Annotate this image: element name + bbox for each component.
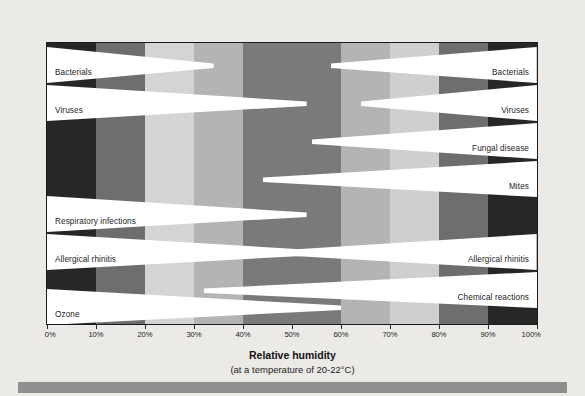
risk-bar-label-fungal-disease-right: Fungal disease [472,145,529,153]
x-tick-50% [292,325,293,329]
x-tick-label-100%: 100% [521,330,540,339]
risk-bar-fungal-disease-right [312,123,537,159]
risk-bar-allergical-rhinitis-right [277,234,537,270]
x-axis-subtitle: (at a temperature of 20-22°C) [0,364,585,375]
risk-bar-label-bacterials-right: Bacterials [492,69,529,77]
x-tick-0% [47,325,48,329]
bar-wedge [47,47,214,83]
risk-bar-label-allergical-rhinitis-right: Allergical rhinitis [468,256,529,264]
x-tick-70% [390,325,391,329]
x-tick-20% [145,325,146,329]
x-tick-label-90%: 90% [480,330,495,339]
bar-wedge [331,47,537,83]
x-tick-30% [194,325,195,329]
risk-bar-viruses-right [361,85,537,121]
plot-area: BacterialsBacterialsVirusesVirusesFungal… [46,42,538,325]
bar-wedge [47,85,307,121]
x-axis: 0%10%20%30%40%50%60%70%80%90%100% [46,325,538,331]
x-tick-label-20%: 20% [137,330,152,339]
x-tick-label-40%: 40% [235,330,250,339]
risk-bar-respiratory-infections-left [47,196,307,232]
risk-bar-bacterials-right [331,47,537,83]
risk-bar-label-ozone-left: Ozone [55,311,80,319]
x-tick-label-50%: 50% [284,330,299,339]
risk-bar-label-respiratory-infections-left: Respiratory infections [55,218,136,226]
bar-wedge [361,85,537,121]
bar-wedge [312,123,537,159]
risk-bar-label-chemical-reactions-right: Chemical reactions [458,294,529,302]
risk-bar-ozone-left [47,289,341,325]
x-tick-80% [439,325,440,329]
x-tick-label-70%: 70% [382,330,397,339]
risk-bar-label-viruses-right: Viruses [501,107,529,115]
risk-bar-mites-right [263,161,537,197]
x-tick-100% [537,325,538,329]
risk-bar-bacterials-left [47,47,214,83]
x-tick-label-30%: 30% [186,330,201,339]
risk-bar-label-allergical-rhinitis-left: Allergical rhinitis [55,256,116,264]
bar-wedge [263,161,537,197]
risk-bar-viruses-left [47,85,307,121]
x-tick-60% [341,325,342,329]
bar-wedge [47,196,307,232]
chart-canvas: BacterialsBacterialsVirusesVirusesFungal… [0,0,585,396]
risk-bar-label-mites-right: Mites [509,183,529,191]
risk-bar-label-viruses-left: Viruses [55,107,83,115]
x-tick-40% [243,325,244,329]
risk-bar-label-bacterials-left: Bacterials [55,69,92,77]
x-tick-label-0%: 0% [45,330,56,339]
bar-wedge [277,234,537,270]
x-tick-90% [488,325,489,329]
x-tick-10% [96,325,97,329]
x-tick-label-10%: 10% [88,330,103,339]
footer-accent-bar [18,382,567,393]
bar-wedge [47,289,341,325]
x-tick-label-80%: 80% [431,330,446,339]
x-axis-title: Relative humidity [0,349,585,361]
x-tick-label-60%: 60% [333,330,348,339]
